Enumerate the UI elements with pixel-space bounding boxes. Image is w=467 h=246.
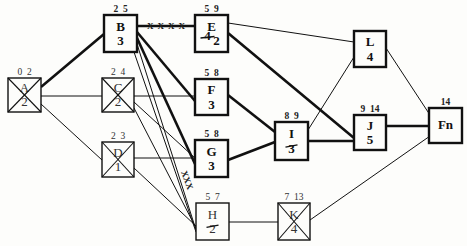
node-f: F35 8 bbox=[195, 68, 228, 115]
node-k: K47 13 bbox=[278, 192, 310, 240]
node-j: J59 14 bbox=[354, 104, 386, 150]
node-name: H bbox=[208, 207, 217, 222]
node-name: G bbox=[206, 144, 216, 159]
node-times: 5 7 bbox=[205, 192, 220, 202]
node-times: 7 13 bbox=[285, 192, 304, 202]
node-name: L bbox=[366, 34, 375, 49]
node-duration: 2 bbox=[213, 33, 220, 48]
node-times: 5 8 bbox=[204, 129, 219, 139]
node-duration: 2 bbox=[115, 94, 122, 109]
node-times: 0 2 bbox=[17, 67, 32, 77]
node-duration: 2 bbox=[209, 221, 216, 236]
node-name: F bbox=[208, 82, 216, 97]
edge-b-h bbox=[134, 52, 196, 232]
node-times: 2 5 bbox=[113, 4, 128, 14]
edge-a-d bbox=[41, 104, 102, 160]
node-duration: 1 bbox=[115, 159, 122, 174]
node-duration: 2 bbox=[21, 94, 28, 109]
node-times: 2 4 bbox=[111, 67, 126, 77]
node-e: E245 9 bbox=[195, 4, 228, 52]
edge-c-h bbox=[134, 108, 196, 228]
node-l: L4 bbox=[354, 31, 386, 67]
node-name: Fn bbox=[438, 117, 454, 132]
node-duration: 4 bbox=[367, 49, 374, 64]
edge-e-l bbox=[228, 23, 354, 42]
node-duration: 3 bbox=[208, 158, 215, 173]
struck-duration: 4 bbox=[204, 28, 211, 43]
node-times: 14 bbox=[441, 97, 451, 107]
node-duration: 3 bbox=[208, 97, 215, 112]
marks-layer: XXXXXXX bbox=[147, 21, 195, 191]
node-c: C22 4 bbox=[102, 67, 134, 112]
node-duration: 3 bbox=[288, 141, 295, 156]
node-h: H25 7 bbox=[196, 192, 229, 240]
node-fn: Fn14 bbox=[429, 97, 462, 143]
node-duration: 5 bbox=[367, 132, 374, 147]
node-duration: 3 bbox=[117, 33, 124, 48]
network-diagram: XXXXXXX A20 2B32 5C22 4D12 3E245 9F35 8G… bbox=[0, 0, 467, 246]
node-name: I bbox=[289, 126, 294, 141]
node-times: 8 9 bbox=[284, 111, 299, 121]
node-name: B bbox=[116, 19, 125, 34]
edge-b-h bbox=[137, 44, 196, 230]
node-g: G35 8 bbox=[195, 129, 228, 177]
edge-mark-bh: XXX bbox=[179, 169, 195, 191]
node-b: B32 5 bbox=[104, 4, 137, 52]
node-name: K bbox=[289, 207, 299, 222]
edge-f-i bbox=[228, 95, 275, 132]
node-times: 5 8 bbox=[204, 68, 219, 78]
node-times: 2 3 bbox=[111, 131, 126, 141]
node-name: J bbox=[367, 118, 374, 133]
node-i: I38 9 bbox=[275, 111, 308, 160]
edge-a-b bbox=[41, 34, 104, 87]
node-a: A20 2 bbox=[8, 67, 41, 112]
edge-b-f bbox=[137, 32, 195, 101]
node-name: D bbox=[113, 145, 122, 160]
node-times: 9 14 bbox=[361, 104, 380, 114]
edge-g-i bbox=[228, 142, 275, 160]
edge-l-fn bbox=[386, 48, 430, 115]
node-d: D12 3 bbox=[102, 131, 134, 177]
edge-c-g bbox=[134, 102, 195, 158]
node-times: 5 9 bbox=[204, 4, 219, 14]
